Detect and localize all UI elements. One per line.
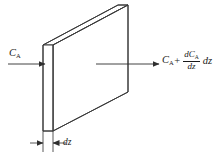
- trailing-variable: z: [208, 55, 212, 66]
- denominator-variable: z: [192, 61, 196, 71]
- inlet-concentration-label: CA: [9, 48, 21, 59]
- thickness-dimension: [30, 131, 66, 152]
- outlet-base-term: CA: [162, 55, 174, 66]
- numerator-subscript: A: [195, 54, 199, 60]
- diffusion-slab-figure: CA CA + dCA dz dz dz: [0, 0, 221, 163]
- outlet-trailing-differential: dz: [203, 56, 212, 67]
- slab-geometry-svg: [0, 0, 221, 163]
- outlet-base-symbol: C: [162, 54, 169, 65]
- outlet-plus-operator: +: [174, 56, 180, 67]
- inlet-subscript: A: [16, 52, 21, 59]
- derivative-fraction: dCA dz: [183, 50, 200, 72]
- outlet-concentration-label: CA + dCA dz dz: [162, 50, 212, 72]
- fraction-denominator: dz: [183, 61, 200, 72]
- inlet-symbol: C: [9, 47, 16, 58]
- outlet-base-subscript: A: [169, 59, 174, 66]
- slab-front-face: [43, 45, 53, 131]
- slab-solid: [43, 5, 128, 131]
- thickness-label: dz: [63, 138, 71, 148]
- fraction-numerator: dCA: [183, 50, 200, 61]
- thickness-variable: z: [68, 137, 72, 147]
